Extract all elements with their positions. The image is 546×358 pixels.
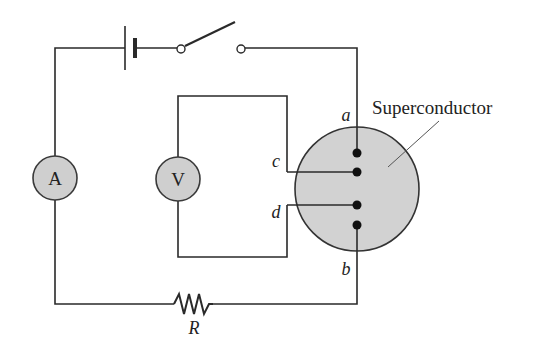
label-d: d (272, 202, 282, 222)
wire-voltmeter-to-c (178, 96, 287, 172)
ammeter: A (33, 156, 77, 200)
label-superconductor: Superconductor (372, 97, 493, 118)
switch-lever (185, 22, 235, 46)
wire-top-left (55, 48, 125, 166)
resistor (174, 294, 213, 314)
switch-terminal-right (237, 45, 245, 53)
wire-ammeter-to-resistor (55, 200, 174, 304)
switch (177, 22, 245, 53)
contact-dot-b (353, 221, 362, 230)
ammeter-symbol: A (48, 168, 62, 189)
label-c: c (272, 151, 280, 171)
label-r: R (188, 318, 200, 338)
voltmeter-symbol: V (171, 169, 185, 190)
battery (125, 26, 135, 70)
contact-dot-a (353, 149, 362, 158)
label-b: b (342, 259, 351, 279)
contact-dot-c (353, 168, 362, 177)
circuit-diagram: A V a c d b R Superconductor (0, 0, 546, 358)
label-a: a (342, 105, 351, 125)
contact-dot-d (353, 201, 362, 210)
voltmeter: V (156, 157, 200, 201)
switch-terminal-left (177, 45, 185, 53)
